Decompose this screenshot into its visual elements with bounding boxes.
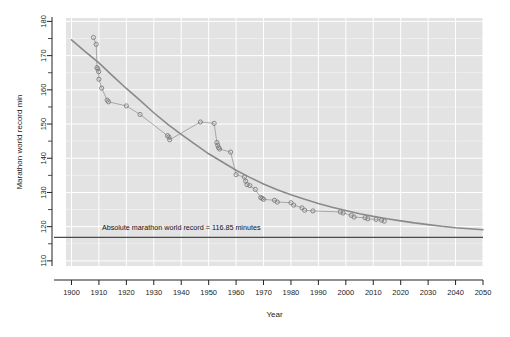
- x-axis-tick-label: 1960: [228, 288, 245, 297]
- y-axis-tick-label: 160: [39, 84, 48, 97]
- x-axis-tick-label: 1980: [283, 288, 300, 297]
- x-axis-tick-label: 2050: [475, 288, 492, 297]
- y-axis-tick-label: 140: [39, 152, 48, 165]
- marathon-world-record-chart: Absolute marathon world record = 116.85 …: [0, 0, 510, 337]
- x-axis-title: Year: [266, 310, 283, 319]
- x-axis-tick-label: 1910: [91, 288, 108, 297]
- y-axis-tick-label: 130: [39, 186, 48, 199]
- x-axis-tick-label: 2020: [392, 288, 409, 297]
- y-axis-tick-label: 170: [39, 49, 48, 62]
- y-axis-tick-label: 120: [39, 220, 48, 233]
- x-axis-tick-label: 1970: [255, 288, 272, 297]
- y-axis-tick-label: 110: [39, 255, 48, 267]
- x-axis-tick-label: 1930: [145, 288, 162, 297]
- x-axis-tick-label: 1950: [200, 288, 217, 297]
- x-axis-tick-label: 1900: [63, 288, 80, 297]
- x-axis-tick-label: 2030: [420, 288, 437, 297]
- x-axis-tick-label: 2010: [365, 288, 382, 297]
- y-axis-tick-label: 150: [39, 118, 48, 131]
- x-axis-tick-label: 2040: [447, 288, 464, 297]
- absolute-record-label: Absolute marathon world record = 116.85 …: [102, 223, 261, 232]
- x-axis-tick-label: 2000: [337, 288, 354, 297]
- x-axis-tick-label: 1940: [173, 288, 190, 297]
- y-axis-tick-label: 180: [39, 15, 48, 28]
- y-axis-title: Marathon world record min: [15, 94, 24, 189]
- chart-figure: Absolute marathon world record = 116.85 …: [0, 0, 510, 337]
- x-axis-tick-label: 1990: [310, 288, 327, 297]
- x-axis-tick-label: 1920: [118, 288, 135, 297]
